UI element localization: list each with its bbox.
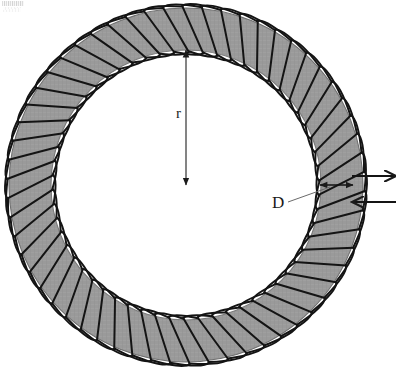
winding-turn: [257, 21, 258, 72]
toroidal-solenoid-figure: r D: [0, 0, 396, 377]
radius-label: r: [176, 105, 181, 121]
winding-turn: [114, 298, 115, 349]
thickness-label: D: [272, 193, 284, 212]
diagram-canvas: r D: [0, 0, 396, 377]
